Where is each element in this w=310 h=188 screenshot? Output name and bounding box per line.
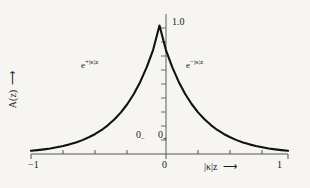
- x-tick-label-one: 1: [277, 160, 282, 170]
- right-exponential-exponent: −|κ|z: [190, 58, 203, 66]
- left-exponential-exponent: +|κ|z: [85, 58, 98, 66]
- zero-minus-label: 0−: [136, 130, 145, 143]
- exponential-decay-chart-figure: 1.0 0− 0+ e+|κ|z e−|κ|z −1 0 1 |κ|z⟶ A(z…: [0, 0, 310, 188]
- chart-plot-area: [0, 0, 310, 188]
- x-axis-caption-text: |κ|z: [204, 161, 217, 172]
- x-tick-label-minus-one: −1: [28, 160, 39, 170]
- y-axis-caption: A(z)⟶: [8, 72, 18, 108]
- y-axis-caption-text: A(z): [7, 90, 18, 108]
- y-axis-arrow-icon: ⟶: [8, 72, 18, 85]
- zero-plus-label: 0+: [158, 130, 167, 143]
- zero-plus-sign: +: [163, 135, 167, 143]
- x-axis-arrow-icon: ⟶: [223, 162, 236, 172]
- left-exponential-annotation: e+|κ|z: [81, 59, 98, 70]
- peak-value-label: 1.0: [172, 17, 185, 27]
- right-exponential-annotation: e−|κ|z: [186, 59, 203, 70]
- zero-minus-sign: −: [141, 135, 145, 143]
- x-tick-label-zero: 0: [162, 160, 167, 170]
- x-axis-caption: |κ|z⟶: [204, 162, 236, 172]
